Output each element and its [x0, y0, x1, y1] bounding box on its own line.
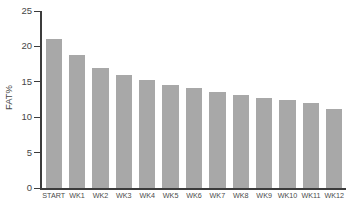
bar[interactable]: [92, 68, 108, 188]
bar-slot: [116, 11, 132, 188]
y-axis-tick: [34, 152, 40, 153]
x-axis-label: WK1: [65, 191, 88, 201]
x-axis-label: WK7: [206, 191, 229, 201]
y-axis-tick: [34, 188, 40, 189]
y-axis-tick-label: 5: [0, 148, 32, 157]
x-axis-label: WK12: [323, 191, 346, 201]
bar[interactable]: [326, 109, 342, 188]
bar-chart: FAT% 0510152025 STARTWK1WK2WK3WK4WK5WK6W…: [0, 0, 350, 224]
y-axis-tick: [34, 11, 40, 12]
bar-slot: [162, 11, 178, 188]
y-axis-tick: [34, 117, 40, 118]
x-axis-label: WK11: [299, 191, 322, 201]
bar[interactable]: [303, 103, 319, 188]
x-axis-label: WK4: [136, 191, 159, 201]
bar-slot: [69, 11, 85, 188]
bar-slot: [326, 11, 342, 188]
y-axis-tick-label: 15: [0, 77, 32, 86]
bar-slot: [92, 11, 108, 188]
y-axis-tick-label: 10: [0, 112, 32, 121]
bar-slot: [256, 11, 272, 188]
x-axis-labels: STARTWK1WK2WK3WK4WK5WK6WK7WK8WK9WK10WK11…: [42, 191, 346, 205]
y-axis-tick-label: 0: [0, 183, 32, 192]
x-axis-label: WK2: [89, 191, 112, 201]
bar-slot: [233, 11, 249, 188]
bar-slot: [139, 11, 155, 188]
bar[interactable]: [279, 100, 295, 189]
bar[interactable]: [256, 98, 272, 188]
bar[interactable]: [209, 92, 225, 188]
x-axis-label: WK8: [229, 191, 252, 201]
bar[interactable]: [162, 85, 178, 188]
y-axis-tick: [34, 46, 40, 47]
x-axis-label: START: [42, 191, 65, 201]
bar[interactable]: [139, 80, 155, 188]
y-axis-tick: [34, 81, 40, 82]
x-axis-label: WK9: [252, 191, 275, 201]
bar[interactable]: [69, 55, 85, 188]
x-axis-line: [40, 188, 346, 190]
bar[interactable]: [233, 95, 249, 188]
plot-area: [42, 11, 346, 188]
x-axis-label: WK6: [182, 191, 205, 201]
bar-slot: [46, 11, 62, 188]
x-axis-label: WK10: [276, 191, 299, 201]
y-axis-tick-label: 25: [0, 6, 32, 15]
bar-slot: [279, 11, 295, 188]
bar-slot: [303, 11, 319, 188]
bar[interactable]: [116, 75, 132, 188]
y-axis-tick-label: 20: [0, 41, 32, 50]
x-axis-label: WK3: [112, 191, 135, 201]
bar-slot: [186, 11, 202, 188]
bar[interactable]: [46, 39, 62, 188]
x-axis-label: WK5: [159, 191, 182, 201]
bar-slot: [209, 11, 225, 188]
bar[interactable]: [186, 88, 202, 188]
